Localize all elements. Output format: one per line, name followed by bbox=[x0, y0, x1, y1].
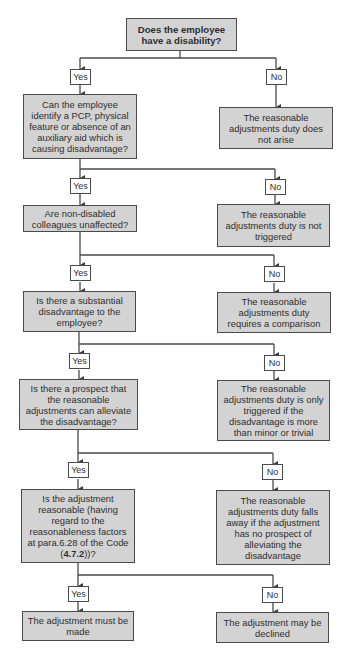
root-question-text: Does the employee have a disability? bbox=[131, 24, 232, 46]
question-box-substantial-disadvantage: Is there a substantial disadvantage to t… bbox=[23, 291, 136, 332]
yes-label: Yes bbox=[68, 462, 89, 478]
outcome-text: The reasonable adjustments duty falls aw… bbox=[221, 495, 325, 561]
outcome-box-duty-does-not-arise: The reasonable adjustments duty does not… bbox=[219, 107, 333, 149]
yes-label: Yes bbox=[70, 265, 91, 281]
yes-label: Yes bbox=[70, 69, 91, 85]
question-text: Can the employee identify a PCP, physica… bbox=[28, 99, 132, 154]
yes-text: Yes bbox=[71, 465, 86, 475]
no-text: No bbox=[269, 358, 281, 368]
question-text: Is the adjustment reasonable (having reg… bbox=[26, 493, 130, 559]
question-text: Are non-disabled colleagues unaffected? bbox=[28, 208, 132, 230]
outcome-text: The reasonable adjustments duty does not… bbox=[224, 112, 328, 145]
yes-text: Yes bbox=[73, 268, 88, 278]
question-text: Is there a prospect that the reasonable … bbox=[24, 383, 133, 427]
no-label: No bbox=[266, 69, 287, 85]
no-label: No bbox=[265, 179, 286, 195]
outcome-box-duty-not-triggered: The reasonable adjustments duty is not t… bbox=[217, 204, 330, 247]
no-label: No bbox=[262, 464, 283, 480]
yes-label: Yes bbox=[70, 178, 91, 194]
question-text: Is there a substantial disadvantage to t… bbox=[28, 295, 131, 328]
no-text: No bbox=[271, 72, 283, 82]
outcome-box-must-be-made: The adjustment must be made bbox=[22, 611, 134, 641]
root-question-box: Does the employee have a disability? bbox=[126, 18, 237, 51]
outcome-text: The reasonable adjustments duty is only … bbox=[222, 383, 325, 438]
no-label: No bbox=[264, 355, 285, 371]
outcome-text: The adjustment may be declined bbox=[221, 617, 324, 639]
no-text: No bbox=[269, 269, 281, 279]
question-box-colleagues: Are non-disabled colleagues unaffected? bbox=[23, 205, 137, 232]
question-box-pcp: Can the employee identify a PCP, physica… bbox=[23, 94, 137, 159]
no-text: No bbox=[267, 590, 279, 600]
no-text: No bbox=[270, 182, 282, 192]
outcome-box-requires-comparison: The reasonable adjustments duty requires… bbox=[217, 292, 331, 333]
yes-text: Yes bbox=[72, 356, 87, 366]
outcome-text: The reasonable adjustments duty requires… bbox=[222, 296, 326, 329]
question-box-prospect: Is there a prospect that the reasonable … bbox=[19, 379, 138, 430]
code-reference: 4.7.2 bbox=[63, 548, 84, 559]
question-suffix: ))? bbox=[84, 548, 95, 559]
yes-label: Yes bbox=[68, 586, 89, 602]
no-label: No bbox=[264, 266, 285, 282]
yes-text: Yes bbox=[73, 181, 88, 191]
outcome-box-more-than-minor: The reasonable adjustments duty is only … bbox=[217, 380, 330, 441]
outcome-box-falls-away: The reasonable adjustments duty falls aw… bbox=[216, 490, 330, 565]
outcome-box-may-be-declined: The adjustment may be declined bbox=[216, 612, 329, 643]
outcome-text: The reasonable adjustments duty is not t… bbox=[222, 209, 325, 242]
yes-text: Yes bbox=[73, 72, 88, 82]
no-text: No bbox=[267, 467, 279, 477]
no-label: No bbox=[262, 587, 283, 603]
outcome-text: The adjustment must be made bbox=[27, 615, 129, 637]
yes-label: Yes bbox=[69, 353, 90, 369]
yes-text: Yes bbox=[71, 589, 86, 599]
question-box-reasonable: Is the adjustment reasonable (having reg… bbox=[21, 489, 135, 563]
